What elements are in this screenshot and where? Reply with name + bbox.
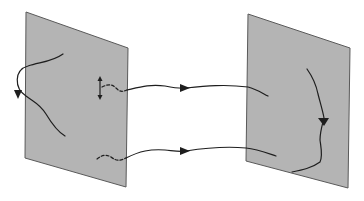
diagram-canvas: [0, 0, 364, 201]
right-plane: [246, 14, 350, 188]
lower-connector-arrow-icon: [180, 147, 190, 155]
left-loop-arrow-icon: [14, 90, 22, 99]
two-planes-diagram: [0, 0, 364, 201]
planes-layer: [25, 12, 350, 188]
upper-connector-arrow-icon: [180, 84, 190, 92]
left-plane: [25, 12, 128, 187]
